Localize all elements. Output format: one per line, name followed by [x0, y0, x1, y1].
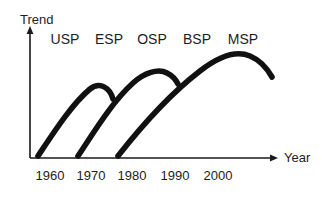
- trend-chart: Trend Year USP ESP OSP BSP MSP 1960 1970…: [0, 0, 322, 199]
- x-tick-1980: 1980: [118, 168, 147, 183]
- x-tick-1970: 1970: [77, 168, 106, 183]
- trend-curve-osp: [118, 54, 272, 156]
- x-axis-tick-labels: 1960 1970 1980 1990 2000: [36, 168, 233, 183]
- chart-canvas: Trend Year USP ESP OSP BSP MSP 1960 1970…: [0, 0, 322, 199]
- series-label-msp: MSP: [228, 31, 258, 47]
- x-axis-title: Year: [284, 150, 311, 165]
- series-label-osp: OSP: [137, 31, 167, 47]
- x-tick-2000: 2000: [204, 168, 233, 183]
- x-axis: [30, 155, 278, 162]
- trend-curves: [38, 54, 272, 156]
- x-axis-arrow-icon: [270, 155, 278, 162]
- series-label-esp: ESP: [95, 31, 123, 47]
- x-tick-1960: 1960: [36, 168, 65, 183]
- y-axis-arrow-icon: [27, 26, 34, 34]
- series-label-usp: USP: [51, 31, 80, 47]
- series-labels: USP ESP OSP BSP MSP: [51, 31, 259, 47]
- x-tick-1990: 1990: [161, 168, 190, 183]
- y-axis: [27, 26, 34, 158]
- y-axis-title: Trend: [20, 12, 53, 27]
- series-label-bsp: BSP: [183, 31, 211, 47]
